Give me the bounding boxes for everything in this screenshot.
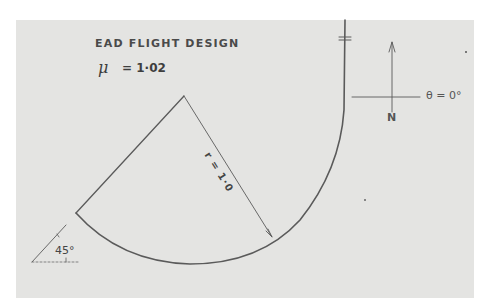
- ink-dot: [364, 199, 366, 201]
- sector-left-edge: [76, 96, 184, 213]
- ink-dot: [465, 51, 467, 53]
- flight-path-curve: [76, 20, 345, 264]
- angle-label: 45°: [55, 244, 75, 257]
- angle-tick: [57, 234, 59, 237]
- diagram-title: EAD FLIGHT DESIGN: [95, 37, 239, 50]
- mu-symbol: μ: [98, 58, 108, 77]
- radius-line: [184, 96, 272, 237]
- north-label: N: [387, 111, 396, 124]
- heading-label: θ = 0°: [426, 89, 461, 102]
- mu-value: = 1·02: [122, 61, 166, 75]
